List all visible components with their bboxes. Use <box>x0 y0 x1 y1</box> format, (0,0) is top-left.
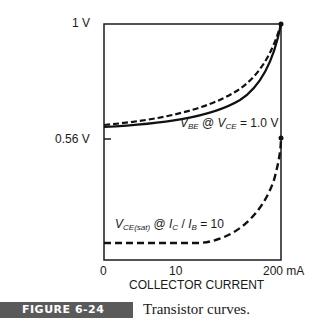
vcesat-endpoint <box>279 136 284 141</box>
vbe-annotation: VBE @ VCE = 1.0 V <box>180 116 278 131</box>
y-tick-label-056v: 0.56 V <box>55 132 90 146</box>
y-tick-label-1v: 1 V <box>72 16 90 30</box>
vcesat-annotation: VCE(sat) @ IC / IB = 10 <box>115 217 224 232</box>
figure-label: FIGURE 6-24 <box>0 302 133 318</box>
figure-caption: Transistor curves. <box>143 301 250 318</box>
vbe-endpoint <box>279 22 284 27</box>
x-tick-label-200ma: 200 mA <box>263 264 304 278</box>
x-tick-label-0: 0 <box>100 264 107 278</box>
chart-plot-area <box>0 0 324 300</box>
vbe-dashed-curve <box>104 24 281 125</box>
vbe-solid-curve <box>104 24 281 127</box>
x-axis-title: COLLECTOR CURRENT <box>129 278 264 292</box>
x-tick-label-10: 10 <box>169 264 182 278</box>
